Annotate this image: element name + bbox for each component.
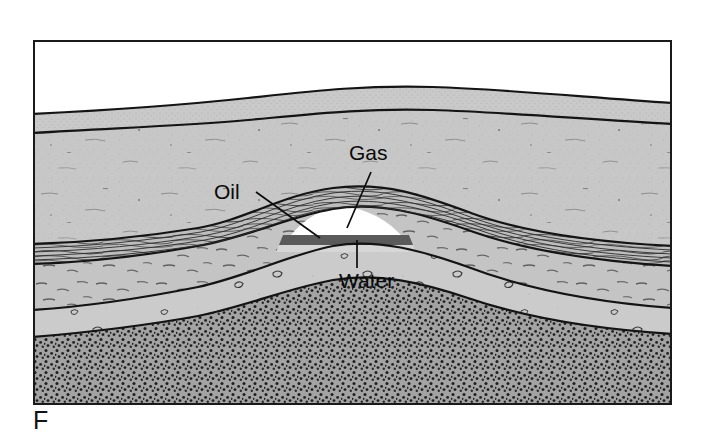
cross-section-frame [33,40,672,405]
figure-root: Gas Oil Water F [0,0,703,444]
label-water: Water [339,270,394,291]
label-oil: Oil [214,181,240,202]
panel-label: F [33,408,49,433]
cross-section-svg [33,40,672,405]
label-gas: Gas [349,142,388,163]
